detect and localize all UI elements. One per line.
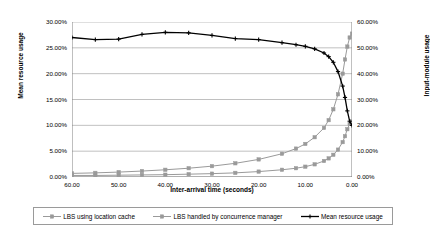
chart-svg xyxy=(72,22,352,177)
y-axis-left-tick-label: 20.00% xyxy=(25,70,67,77)
x-axis-tick-label: 20.00 xyxy=(239,181,279,188)
x-axis-tick-label: 0.00 xyxy=(332,181,372,188)
chart-legend: LBS using location cacheLBS handled by c… xyxy=(33,207,393,225)
y-axis-left-tick-label: 5.00% xyxy=(25,147,67,154)
y-axis-right-tick-label: 10.00% xyxy=(357,147,399,154)
legend-marker-icon xyxy=(301,212,319,221)
y-axis-right-tick-label: 40.00% xyxy=(357,70,399,77)
y-axis-right-tick-label: 0.00% xyxy=(357,173,399,180)
y-axis-right-tick-label: 50.00% xyxy=(357,44,399,51)
y-axis-left-tick-label: 0.00% xyxy=(25,173,67,180)
legend-label: LBS handled by concurrence manager xyxy=(173,213,282,220)
plot-area xyxy=(72,22,352,177)
legend-label: LBS using location cache xyxy=(63,213,135,220)
legend-item[interactable]: Mean resource usage xyxy=(301,212,383,221)
legend-item[interactable]: LBS using location cache xyxy=(43,212,135,221)
x-axis-tick-label: 40.00 xyxy=(145,181,185,188)
legend-label: Mean resource usage xyxy=(321,213,383,220)
y-axis-left-tick-label: 10.00% xyxy=(25,121,67,128)
x-axis-tick-label: 10.00 xyxy=(285,181,325,188)
y-axis-right-tick-label: 20.00% xyxy=(357,121,399,128)
y-axis-left-tick-label: 30.00% xyxy=(25,18,67,25)
y-axis-left-tick-label: 15.00% xyxy=(25,96,67,103)
legend-marker-icon xyxy=(43,212,61,221)
y-axis-left-tick-label: 25.00% xyxy=(25,44,67,51)
x-axis-tick-label: 30.00 xyxy=(192,181,232,188)
legend-item[interactable]: LBS handled by concurrence manager xyxy=(153,212,282,221)
legend-marker-icon xyxy=(153,212,171,221)
x-axis-tick-label: 50.00 xyxy=(99,181,139,188)
x-axis-tick-label: 60.00 xyxy=(52,181,92,188)
y-axis-right-tick-label: 60.00% xyxy=(357,18,399,25)
y-axis-left-title: Mean resource usage xyxy=(17,6,24,126)
y-axis-right-tick-label: 30.00% xyxy=(357,96,399,103)
y-axis-right-title: Input-module usage xyxy=(423,6,430,126)
